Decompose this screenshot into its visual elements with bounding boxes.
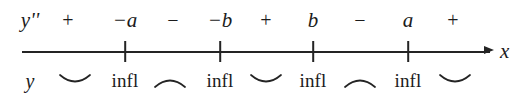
sign-text: − xyxy=(354,9,365,31)
x-axis-label-text: x xyxy=(500,39,509,63)
sign-plus-interval-3: + xyxy=(260,10,271,30)
sign-text: − xyxy=(167,9,178,31)
sign-plus-interval-1: + xyxy=(62,10,73,30)
inflection-text: infl xyxy=(111,70,138,91)
inflection-text: infl xyxy=(299,70,326,91)
second-derivative-label-text: y'' xyxy=(21,8,39,32)
concave-up-arc-3 xyxy=(438,73,472,87)
critical-value-text: b xyxy=(308,8,319,32)
critical-value-text: a xyxy=(403,8,414,32)
sign-plus-interval-5: + xyxy=(447,10,458,30)
inflection-label-a: infl xyxy=(394,71,421,90)
inflection-text: infl xyxy=(394,70,421,91)
tick-mark-a xyxy=(407,41,409,62)
concavity-sign-chart: y'' + −a − −b + b − a + x y xyxy=(0,0,523,100)
sign-text: + xyxy=(260,9,271,31)
sign-minus-interval-2: − xyxy=(167,10,178,30)
number-line-axis xyxy=(22,51,490,53)
inflection-label-b: infl xyxy=(299,71,326,90)
second-derivative-row-label: y'' xyxy=(21,10,39,31)
sign-text: + xyxy=(62,9,73,31)
critical-value-a: a xyxy=(403,10,414,31)
critical-value-text: −a xyxy=(113,8,138,32)
concave-down-arc-2 xyxy=(343,76,377,90)
concave-up-arc-2 xyxy=(249,73,283,87)
tick-mark-neg-b xyxy=(219,41,221,62)
function-row-label: y xyxy=(26,71,35,91)
critical-value-neg-b: −b xyxy=(208,10,233,31)
sign-text: + xyxy=(447,9,458,31)
tick-mark-neg-a xyxy=(124,41,126,62)
tick-mark-b xyxy=(312,41,314,62)
critical-value-text: −b xyxy=(208,8,233,32)
inflection-label-neg-b: infl xyxy=(206,71,233,90)
inflection-label-neg-a: infl xyxy=(111,71,138,90)
inflection-text: infl xyxy=(206,70,233,91)
x-axis-label: x xyxy=(500,41,509,62)
critical-value-neg-a: −a xyxy=(113,10,138,31)
function-label-text: y xyxy=(26,70,35,92)
critical-value-b: b xyxy=(308,10,319,31)
concave-up-arc-1 xyxy=(58,73,92,87)
concave-down-arc-1 xyxy=(153,76,187,90)
sign-minus-interval-4: − xyxy=(354,10,365,30)
axis-arrowhead-icon xyxy=(484,46,494,54)
